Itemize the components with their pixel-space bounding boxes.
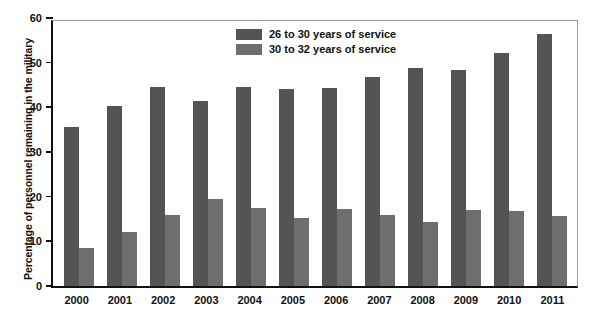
legend-label: 26 to 30 years of service xyxy=(269,28,396,40)
bar xyxy=(193,101,208,286)
bar xyxy=(552,216,567,286)
x-axis-tick-label: 2010 xyxy=(494,290,524,312)
bar xyxy=(365,77,380,286)
bar xyxy=(279,89,294,286)
x-axis-tick-label: 2005 xyxy=(278,290,308,312)
x-axis-tick-label: 2011 xyxy=(537,290,567,312)
bar xyxy=(494,53,509,286)
bar xyxy=(107,106,122,286)
y-axis-tick-label: 60 xyxy=(30,10,42,26)
y-axis-tick-mark xyxy=(46,151,53,153)
x-axis-tick-label: 2002 xyxy=(148,290,178,312)
bar xyxy=(79,248,94,286)
legend-color-swatch xyxy=(236,44,262,55)
y-axis-tick-mark xyxy=(46,196,53,198)
x-axis-tick-label: 2004 xyxy=(235,290,265,312)
legend-label: 30 to 32 years of service xyxy=(269,43,396,55)
legend-item: 30 to 32 years of service xyxy=(236,43,396,55)
bar-group xyxy=(322,21,352,286)
bar-group xyxy=(236,21,266,286)
bar xyxy=(165,215,180,286)
y-axis-tick-mark xyxy=(46,285,53,287)
y-axis-tick-mark xyxy=(46,240,53,242)
y-axis-tick-label: 40 xyxy=(30,99,42,115)
y-axis-tick-label: 30 xyxy=(30,144,42,160)
bar xyxy=(122,232,137,286)
x-axis-tick-label: 2008 xyxy=(408,290,438,312)
chart-legend: 26 to 30 years of service30 to 32 years … xyxy=(236,28,396,55)
x-axis-tick-labels: 2000200120022003200420052006200720082009… xyxy=(51,290,578,312)
x-axis-tick-label: 2006 xyxy=(321,290,351,312)
bar-group xyxy=(451,21,481,286)
bar xyxy=(236,87,251,286)
bar-group xyxy=(279,21,309,286)
bar-group xyxy=(408,21,438,286)
legend-item: 26 to 30 years of service xyxy=(236,28,396,40)
bar xyxy=(380,215,395,286)
x-axis-tick-label: 2001 xyxy=(105,290,135,312)
bar xyxy=(451,70,466,286)
bar xyxy=(322,88,337,286)
bar-group xyxy=(365,21,395,286)
bar-chart-figure: Percentage of personnel remaining in the… xyxy=(0,0,591,318)
bar xyxy=(150,87,165,286)
legend-color-swatch xyxy=(236,29,262,40)
bar xyxy=(423,222,438,286)
y-axis-tick-mark xyxy=(46,62,53,64)
x-axis-tick-label: 2007 xyxy=(364,290,394,312)
bar xyxy=(509,211,524,286)
bar xyxy=(408,68,423,286)
x-axis-tick-label: 2000 xyxy=(62,290,92,312)
y-axis-tick-label: 0 xyxy=(36,278,42,294)
y-axis-tick-mark xyxy=(46,17,53,19)
y-axis-tick-label: 20 xyxy=(30,189,42,205)
y-axis-tick-label: 50 xyxy=(30,55,42,71)
bar-group xyxy=(494,21,524,286)
x-axis-tick-label: 2003 xyxy=(191,290,221,312)
bar xyxy=(537,34,552,286)
bar-group xyxy=(107,21,137,286)
bar xyxy=(294,218,309,286)
plot-area: 0102030405060 xyxy=(51,20,578,288)
bar-groups xyxy=(53,21,577,286)
bar-group xyxy=(193,21,223,286)
bar xyxy=(208,199,223,286)
bar-group xyxy=(64,21,94,286)
bar xyxy=(466,210,481,286)
bar xyxy=(64,127,79,286)
bar-group xyxy=(537,21,567,286)
bar xyxy=(251,208,266,286)
bar-group xyxy=(150,21,180,286)
y-axis-tick-label: 10 xyxy=(30,233,42,249)
x-axis-tick-label: 2009 xyxy=(451,290,481,312)
bar xyxy=(337,209,352,286)
y-axis-tick-mark xyxy=(46,106,53,108)
